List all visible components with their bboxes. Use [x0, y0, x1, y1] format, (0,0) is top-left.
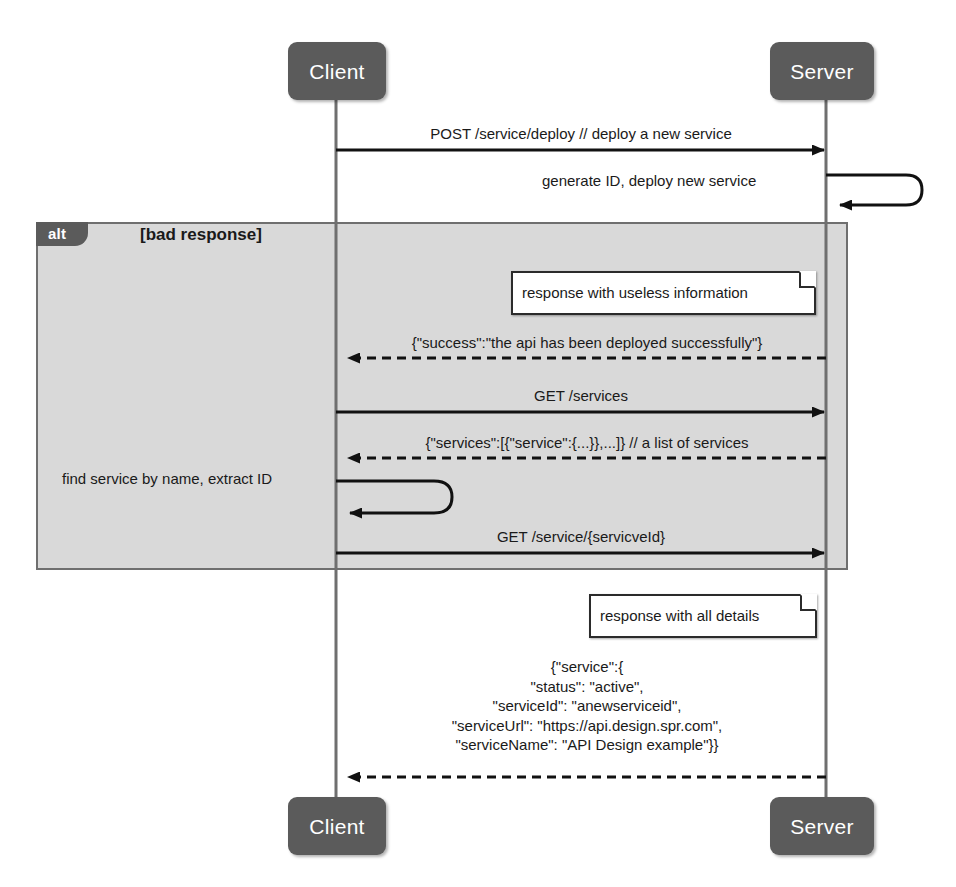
message-label-m1: POST /service/deploy // deploy a new ser… — [430, 125, 732, 142]
message-label-m5: {"services":[{"service":{...}},...]} // … — [425, 434, 748, 451]
message-label-m4: GET /services — [534, 387, 628, 404]
note-text: response with useless information — [513, 284, 757, 301]
lifeline-foot-client[interactable]: Client — [288, 797, 386, 855]
note-text: response with all details — [591, 607, 768, 624]
lifeline-head-server-label: Server — [790, 61, 854, 82]
sequence-diagram-canvas: alt [bad response] POST /service/deploy … — [0, 0, 956, 887]
lifeline-foot-server-label: Server — [790, 816, 854, 837]
message-label-m7: GET /service/{servicveId} — [497, 528, 665, 545]
note-useless-information: response with useless information — [511, 271, 816, 315]
lifeline-head-client-label: Client — [309, 61, 365, 82]
message-label-m6: find service by name, extract ID — [62, 470, 272, 487]
note-all-details: response with all details — [589, 594, 817, 638]
message-label-m2: generate ID, deploy new service — [542, 172, 756, 189]
message-label-m3: {"success":"the api has been deployed su… — [412, 334, 763, 351]
lifeline-foot-client-label: Client — [309, 816, 365, 837]
message-arrow-m2 — [826, 175, 922, 205]
message-label-m8: {"service":{ "status": "active", "servic… — [452, 657, 723, 755]
lifeline-head-client[interactable]: Client — [288, 42, 386, 100]
message-arrow-m6 — [336, 481, 452, 513]
lifeline-foot-server[interactable]: Server — [770, 797, 874, 855]
lifeline-head-server[interactable]: Server — [770, 42, 874, 100]
